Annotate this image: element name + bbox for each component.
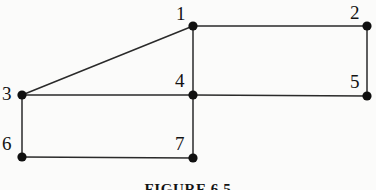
node-layer [17,21,371,162]
graph-node-label-2: 2 [350,3,360,22]
graph-edge-5-4 [193,95,367,96]
graph-node-label-3: 3 [2,84,12,103]
graph-node-7[interactable] [188,153,197,162]
graph-node-label-7: 7 [175,134,185,153]
graph-node-4[interactable] [188,90,197,99]
figure-container: 1234567 FIGURE 6.5 [0,0,376,190]
graph-node-3[interactable] [17,90,26,99]
graph-edge-3-1 [22,26,193,95]
graph-node-6[interactable] [17,152,26,161]
graph-node-label-1: 1 [176,4,186,23]
graph-node-2[interactable] [362,21,371,30]
graph-node-5[interactable] [362,91,371,100]
figure-caption: FIGURE 6.5 [0,181,376,190]
graph-node-1[interactable] [188,21,197,30]
graph-node-label-4: 4 [175,71,185,90]
graph-canvas [0,0,376,190]
graph-edge-6-7 [22,157,193,158]
graph-node-label-5: 5 [350,72,360,91]
graph-node-label-6: 6 [2,134,12,153]
